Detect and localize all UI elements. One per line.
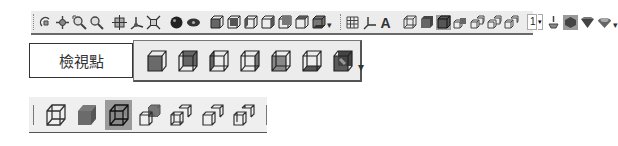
shaded-edges-icon[interactable]	[436, 15, 451, 30]
cube-pair-3-icon[interactable]	[199, 100, 226, 130]
view-front-icon[interactable]	[226, 15, 241, 30]
view-back-icon[interactable]	[270, 49, 292, 73]
view-left-icon[interactable]	[208, 49, 230, 73]
toolbar-grip[interactable]	[340, 14, 341, 30]
cube-pair-1-icon[interactable]	[453, 15, 468, 30]
pan-icon[interactable]	[55, 15, 70, 30]
cube-pair-1-icon[interactable]	[136, 100, 163, 130]
viewpoint-toolbar: ▾	[133, 40, 362, 82]
shaded-icon[interactable]	[419, 15, 434, 30]
material-2-icon[interactable]	[580, 15, 595, 30]
material-3-icon[interactable]	[597, 15, 612, 30]
cube-pair-4-icon[interactable]	[504, 15, 519, 30]
render-eye-icon[interactable]	[186, 15, 201, 30]
view-front-icon[interactable]	[177, 49, 199, 73]
render-sphere-icon[interactable]	[169, 15, 184, 30]
separator	[33, 105, 34, 125]
view-back-icon[interactable]	[277, 15, 292, 30]
view-left-icon[interactable]	[243, 15, 258, 30]
grid-icon[interactable]	[345, 15, 360, 30]
rotate-icon[interactable]	[38, 15, 53, 30]
cube-pair-2-icon[interactable]	[470, 15, 485, 30]
material-1-icon[interactable]	[563, 15, 578, 30]
spinner-dropdown-button[interactable]: ▾	[538, 14, 543, 30]
cube-pair-2-icon[interactable]	[168, 100, 195, 130]
fit-view-icon[interactable]	[146, 15, 161, 30]
view-top-icon[interactable]	[294, 15, 309, 30]
light-icon[interactable]	[546, 15, 561, 30]
view-bottom-icon[interactable]	[311, 15, 326, 30]
text-icon[interactable]: A	[379, 15, 394, 30]
view-bottom-icon[interactable]	[332, 49, 354, 73]
svg-text:A: A	[381, 15, 391, 30]
display-mode-toolbar	[29, 97, 267, 133]
view-iso-icon[interactable]	[209, 15, 224, 30]
cube-pair-3-icon[interactable]	[487, 15, 502, 30]
cube-pair-4-icon[interactable]	[231, 100, 258, 130]
shaded-icon[interactable]	[73, 100, 100, 130]
orbit-icon[interactable]	[112, 15, 127, 30]
main-toolbar: ▾ A 1 ▾ ▾	[31, 11, 533, 35]
wireframe-icon[interactable]	[42, 100, 69, 130]
view-top-icon[interactable]	[301, 49, 323, 73]
view-iso-icon[interactable]	[146, 49, 168, 73]
wireframe-icon[interactable]	[402, 15, 417, 30]
spinner-input[interactable]: 1	[527, 14, 537, 30]
overflow-chevron-icon[interactable]: ▾	[358, 63, 364, 71]
zoom-window-icon[interactable]	[72, 15, 87, 30]
view-right-icon[interactable]	[239, 49, 261, 73]
toolbar-grip[interactable]	[33, 14, 34, 30]
axes-icon[interactable]	[129, 15, 144, 30]
shaded-edges-icon[interactable]	[105, 100, 132, 130]
view-right-icon[interactable]	[260, 15, 275, 30]
coordinate-icon[interactable]	[362, 15, 377, 30]
overflow-chevron-icon[interactable]: ▾	[327, 21, 332, 29]
zoom-icon[interactable]	[89, 15, 104, 30]
separator	[266, 105, 267, 125]
overflow-chevron-icon[interactable]: ▾	[613, 21, 618, 29]
viewpoint-label: 檢視點	[29, 43, 133, 78]
